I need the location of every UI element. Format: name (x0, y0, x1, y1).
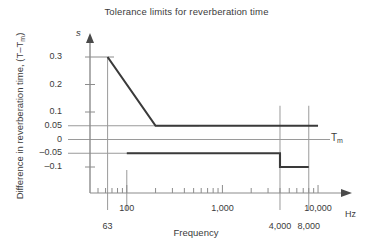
y-tick-label-5: –0.05 (22, 147, 62, 157)
x-tick-label-upper-1: 1,000 (192, 203, 252, 213)
y-tick-label-1: 0.2 (22, 79, 62, 89)
x-tick-label-upper-0: 100 (97, 203, 157, 213)
data-series-layer (108, 57, 318, 167)
series-line-1 (127, 153, 309, 167)
x-axis-unit-label: Hz (345, 209, 356, 219)
x-axis-title: Frequency (151, 227, 241, 238)
reference-line-label: Tm (331, 132, 343, 144)
y-tick-label-2: 0.1 (22, 106, 62, 116)
x-axis-arrow (341, 189, 352, 197)
y-tick-label-4: 0 (22, 134, 62, 144)
vertical-gridlines (108, 57, 309, 210)
y-tick-label-3: 0.05 (22, 120, 62, 130)
x-tick-label-lower-0: 63 (78, 221, 138, 231)
y-tick-label-0: 0.3 (22, 51, 62, 61)
y-tick-label-6: –0.1 (22, 161, 62, 171)
axis-lines (86, 33, 352, 197)
x-tick-label-lower-2: 8,000 (279, 221, 339, 231)
series-line-0 (108, 57, 318, 126)
x-tick-label-upper-2: 10,000 (288, 203, 348, 213)
chart-figure: Tolerance limits for reverberation time … (0, 0, 373, 246)
y-axis-arrow (86, 33, 94, 43)
x-axis-tick-marks (98, 185, 318, 193)
reference-line-label-subscript: m (337, 137, 343, 144)
